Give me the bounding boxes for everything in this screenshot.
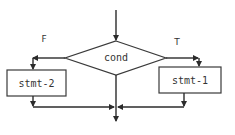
flowchart: cond F T stmt-2 stmt-1 (0, 0, 235, 135)
stmt-1-node: stmt-1 (159, 67, 221, 93)
stmt-2-node: stmt-2 (7, 70, 66, 96)
false-branch-label: F (41, 34, 46, 44)
decision-label: cond (104, 52, 128, 63)
decision-node: cond (65, 41, 166, 75)
true-branch-label: T (173, 37, 180, 47)
stmt-2-label: stmt-2 (18, 78, 54, 89)
stmt-1-label: stmt-1 (172, 75, 208, 86)
